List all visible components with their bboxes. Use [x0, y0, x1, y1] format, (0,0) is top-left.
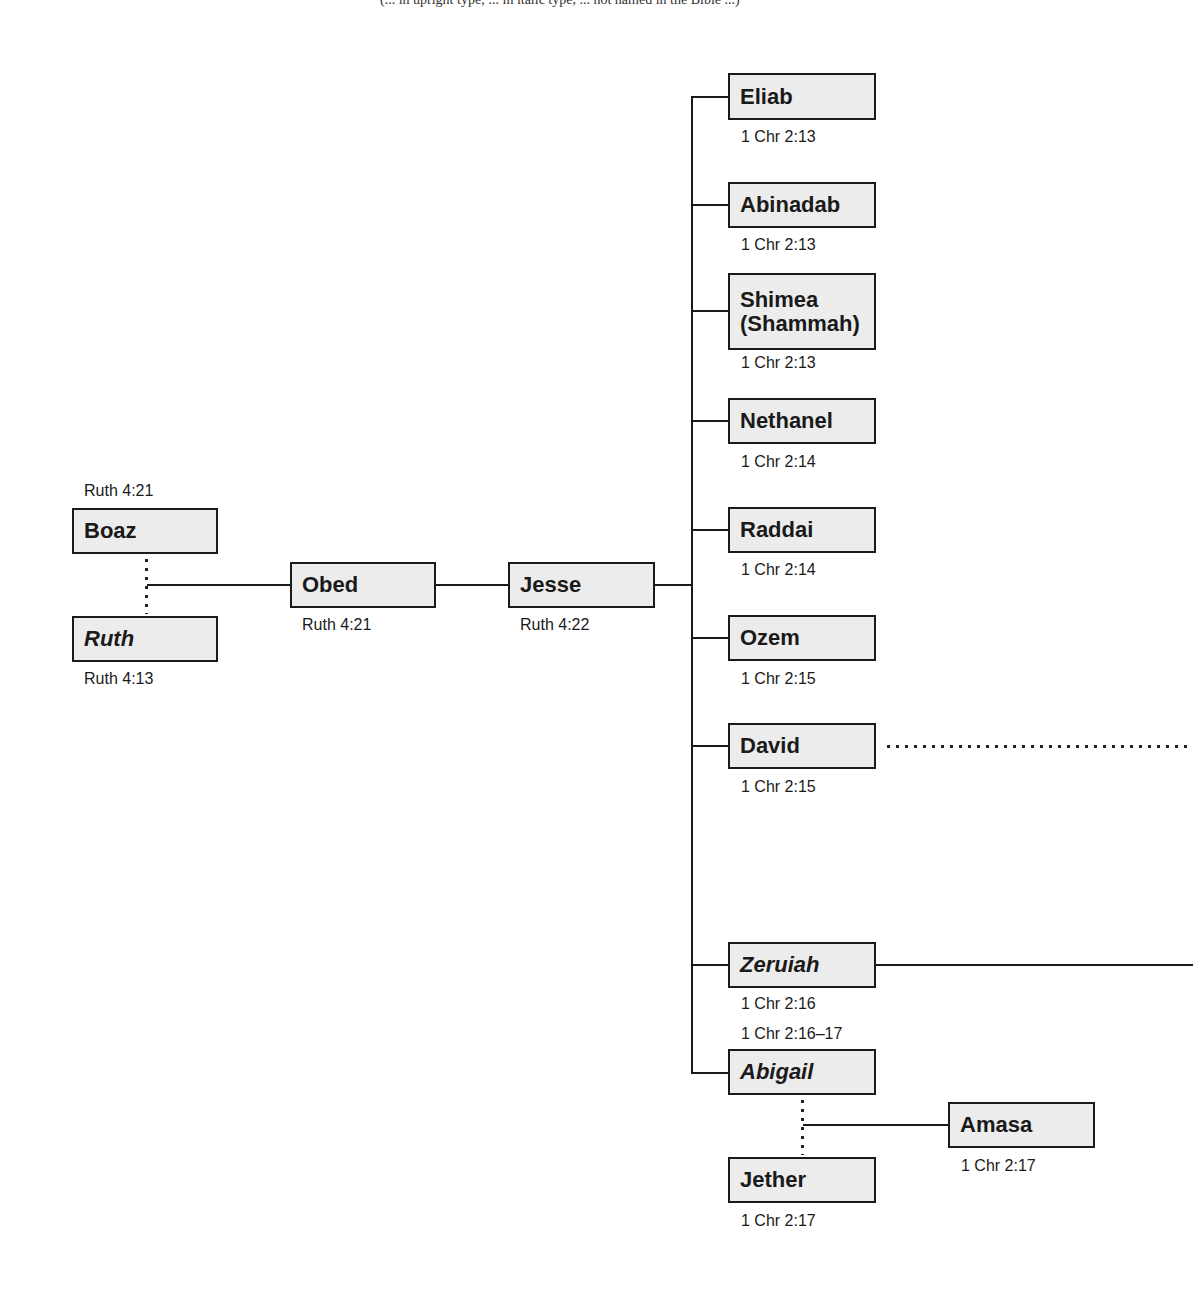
person-name: Ozem	[740, 626, 800, 650]
branch-abigail	[691, 1072, 728, 1074]
person-box-nethanel[interactable]: Nethanel	[728, 398, 876, 444]
person-alt-name: (Shammah)	[740, 312, 860, 336]
abigail-reference: 1 Chr 2:16–17	[741, 1025, 842, 1043]
person-box-jesse[interactable]: Jesse	[508, 562, 655, 608]
person-box-raddai[interactable]: Raddai	[728, 507, 876, 553]
person-box-amasa[interactable]: Amasa	[948, 1102, 1095, 1148]
person-box-ozem[interactable]: Ozem	[728, 615, 876, 661]
abinadab-reference: 1 Chr 2:13	[741, 236, 816, 254]
eliab-reference: 1 Chr 2:13	[741, 128, 816, 146]
branch-david	[691, 745, 728, 747]
person-box-obed[interactable]: Obed	[290, 562, 436, 608]
person-name: Nethanel	[740, 409, 833, 433]
branch-abinadab	[691, 204, 728, 206]
person-box-abigail[interactable]: Abigail	[728, 1049, 876, 1095]
person-name: Raddai	[740, 518, 813, 542]
person-name: Shimea	[740, 288, 818, 312]
branch-zeruiah	[691, 964, 728, 966]
person-box-zeruiah[interactable]: Zeruiah	[728, 942, 876, 988]
person-name: Jesse	[520, 573, 581, 597]
person-name: Boaz	[84, 519, 137, 543]
amasa-reference: 1 Chr 2:17	[961, 1157, 1036, 1175]
boaz-reference: Ruth 4:21	[84, 482, 153, 500]
person-name: David	[740, 734, 800, 758]
zeruiah-offpage-line	[876, 964, 1193, 966]
person-name: Obed	[302, 573, 358, 597]
ozem-reference: 1 Chr 2:15	[741, 670, 816, 688]
person-box-shimea[interactable]: Shimea (Shammah)	[728, 273, 876, 350]
person-box-abinadab[interactable]: Abinadab	[728, 182, 876, 228]
descent-line-to-jesse	[436, 584, 508, 586]
person-box-eliab[interactable]: Eliab	[728, 73, 876, 120]
person-name: Jether	[740, 1168, 806, 1192]
figure-caption-cropped: (... in upright type; ... in italic type…	[380, 0, 900, 8]
ruth-reference: Ruth 4:13	[84, 670, 153, 688]
shimea-reference: 1 Chr 2:13	[741, 354, 816, 372]
branch-shimea	[691, 310, 728, 312]
person-box-jether[interactable]: Jether	[728, 1157, 876, 1203]
branch-eliab	[691, 96, 728, 98]
person-name: Abinadab	[740, 193, 840, 217]
person-box-boaz[interactable]: Boaz	[72, 508, 218, 554]
person-box-ruth[interactable]: Ruth	[72, 616, 218, 662]
marriage-connector-abigail-jether	[801, 1097, 804, 1155]
obed-reference: Ruth 4:21	[302, 616, 371, 634]
person-name: Abigail	[740, 1060, 813, 1084]
sibling-trunk-line	[691, 96, 693, 1074]
branch-nethanel	[691, 420, 728, 422]
david-offpage-dotted-line	[884, 745, 1193, 748]
descent-line-to-amasa	[803, 1124, 948, 1126]
person-name: Amasa	[960, 1113, 1032, 1137]
descent-line-to-obed	[147, 584, 290, 586]
person-name: Eliab	[740, 85, 793, 109]
jether-reference: 1 Chr 2:17	[741, 1212, 816, 1230]
person-box-david[interactable]: David	[728, 723, 876, 769]
raddai-reference: 1 Chr 2:14	[741, 561, 816, 579]
nethanel-reference: 1 Chr 2:14	[741, 453, 816, 471]
person-name: Ruth	[84, 627, 134, 651]
branch-ozem	[691, 637, 728, 639]
person-name: Zeruiah	[740, 953, 819, 977]
zeruiah-reference: 1 Chr 2:16	[741, 995, 816, 1013]
branch-raddai	[691, 529, 728, 531]
jesse-reference: Ruth 4:22	[520, 616, 589, 634]
descent-line-from-jesse	[655, 584, 693, 586]
david-reference: 1 Chr 2:15	[741, 778, 816, 796]
